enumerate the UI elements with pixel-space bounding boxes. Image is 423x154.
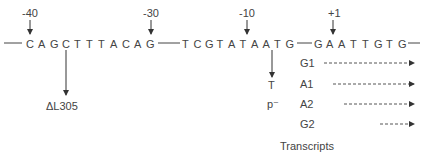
- transcripts-caption: Transcripts: [280, 141, 334, 152]
- transcript-label-g2: G2: [300, 119, 315, 130]
- base: C: [194, 38, 206, 50]
- base: A: [38, 38, 50, 50]
- base: A: [251, 38, 263, 50]
- transcript-label-a2: A2: [300, 99, 313, 110]
- base: T: [182, 38, 194, 50]
- base: G: [374, 38, 386, 50]
- base: C: [26, 38, 38, 50]
- base: C: [62, 38, 74, 50]
- base: T: [74, 38, 86, 50]
- base: A: [134, 38, 146, 50]
- transcript-label-g1: G1: [300, 58, 315, 69]
- base: A: [326, 38, 338, 50]
- base: T: [240, 38, 252, 50]
- position-label-minus40: -40: [22, 8, 38, 19]
- sequence-segment-2: TCGTATAATG: [182, 38, 297, 50]
- base: T: [362, 38, 374, 50]
- base: A: [228, 38, 240, 50]
- position-label-minus30: -30: [143, 8, 159, 19]
- base: A: [263, 38, 275, 50]
- base: G: [398, 38, 410, 50]
- point-mutation-label: p⁻: [267, 99, 279, 110]
- base: G: [205, 38, 217, 50]
- base: T: [217, 38, 229, 50]
- diagram-graphics: [0, 0, 423, 154]
- base: G: [50, 38, 62, 50]
- base: T: [350, 38, 362, 50]
- sequence-segment-1: CAGCTTTACAG: [26, 38, 158, 50]
- base: A: [110, 38, 122, 50]
- base: G: [314, 38, 326, 50]
- base: T: [386, 38, 398, 50]
- base: T: [274, 38, 286, 50]
- base: G: [146, 38, 158, 50]
- position-label-minus10: -10: [239, 8, 255, 19]
- sequence-segment-3: GAATTGTG: [314, 38, 410, 50]
- base: G: [286, 38, 298, 50]
- transcript-label-a1: A1: [300, 79, 313, 90]
- base: C: [122, 38, 134, 50]
- point-mutation-base: T: [268, 80, 275, 91]
- base: T: [98, 38, 110, 50]
- base: A: [338, 38, 350, 50]
- base: T: [86, 38, 98, 50]
- position-label-plus1: +1: [328, 8, 341, 19]
- deletion-label: ΔL305: [46, 101, 78, 112]
